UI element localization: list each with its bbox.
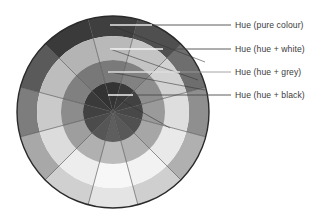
wheel-sector-ring-white-6 xyxy=(93,162,132,188)
wheel-sector-ring-pure-0 xyxy=(88,16,138,39)
wheel-sector-ring-pure-6 xyxy=(88,185,138,208)
wheel-sector-ring-pure-9 xyxy=(17,87,40,137)
colour-wheel-diagram: Hue (pure colour) Hue (hue + white) Hue … xyxy=(0,0,333,215)
wheel-sector-ring-white-3 xyxy=(163,92,189,131)
callout-label-pure-colour: Hue (pure colour) xyxy=(235,20,304,30)
wheel-sector-ring-white-9 xyxy=(37,92,63,131)
callout-label-hue-grey: Hue (hue + grey) xyxy=(235,67,301,77)
callout-label-hue-white: Hue (hue + white) xyxy=(235,44,305,54)
colour-wheel-graphic xyxy=(0,0,333,215)
callout-label-hue-black: Hue (hue + black) xyxy=(235,90,305,100)
